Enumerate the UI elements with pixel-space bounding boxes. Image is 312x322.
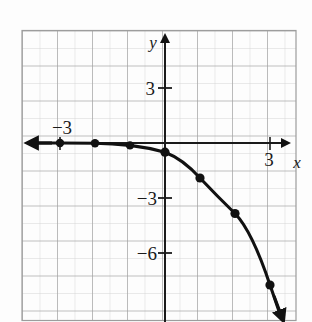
grid-major [22, 31, 296, 321]
x-tick-label-3: 3 [264, 149, 274, 170]
x-tick-label-minus-3: −3 [52, 117, 72, 138]
data-point [195, 173, 204, 182]
y-tick-label-3: 3 [146, 78, 156, 99]
x-axis-label: x [292, 153, 301, 172]
data-point [230, 209, 239, 218]
graph-figure: 3 −3 −6 −3 3 x y [0, 0, 312, 322]
data-point [56, 139, 64, 147]
coordinate-plane-svg: 3 −3 −6 −3 3 x y [0, 0, 312, 322]
y-axis-label: y [147, 33, 157, 52]
data-point [160, 148, 169, 157]
data-point [126, 141, 134, 149]
y-tick-label-minus-6: −6 [137, 243, 157, 264]
y-tick-label-minus-3: −3 [137, 188, 157, 209]
data-point [91, 139, 99, 147]
data-point [265, 280, 274, 289]
